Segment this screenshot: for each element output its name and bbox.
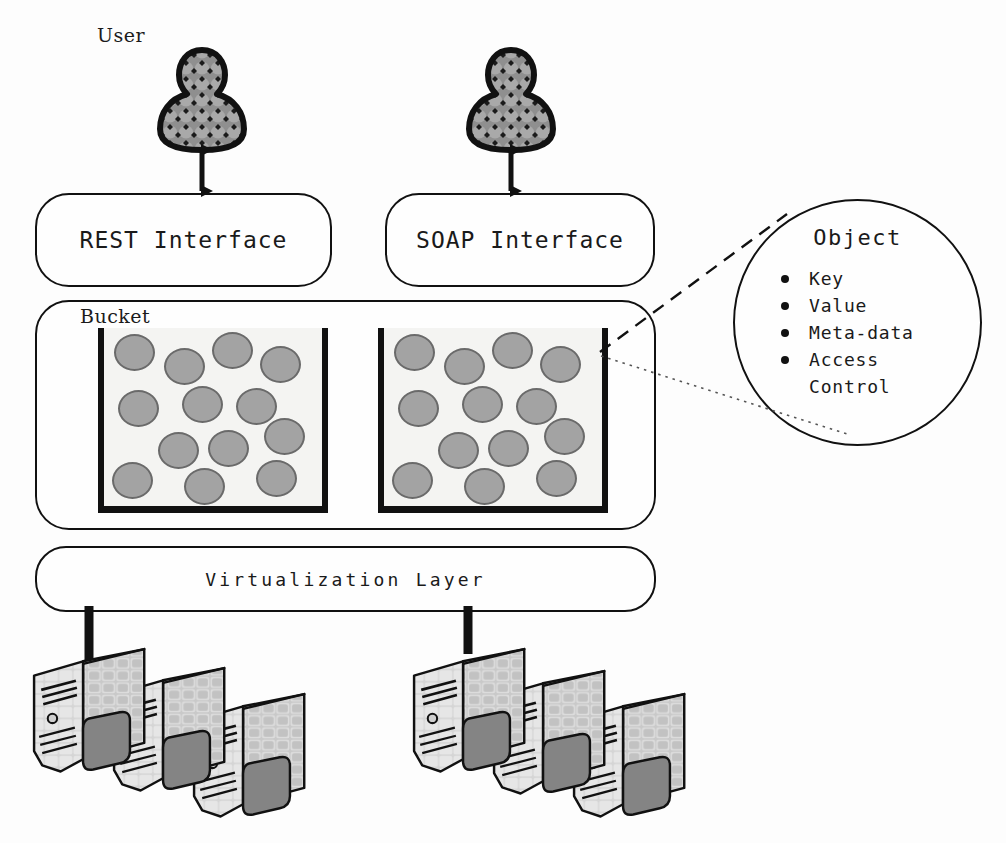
server-tower[interactable] <box>194 694 304 816</box>
storage-object-circle[interactable] <box>182 386 223 423</box>
user-label: User <box>97 24 145 46</box>
storage-object-circle[interactable] <box>392 462 433 499</box>
object-attribute-label: Value <box>809 292 867 319</box>
server-tower[interactable] <box>574 694 684 816</box>
storage-object-circle[interactable] <box>438 432 479 469</box>
bullet-icon <box>781 329 789 337</box>
virtualization-layer-box[interactable]: Virtualization Layer <box>35 546 656 612</box>
storage-object-circle[interactable] <box>260 346 301 383</box>
bullet-icon <box>781 356 789 364</box>
storage-object-circle[interactable] <box>516 388 557 425</box>
bucket-label: Bucket <box>80 305 150 327</box>
object-detail-circle[interactable]: Object Key Value Meta-data Access Contro… <box>733 199 982 446</box>
soap-interface-box[interactable]: SOAP Interface <box>385 193 655 287</box>
storage-object-circle[interactable] <box>114 334 155 371</box>
virtualization-layer-label: Virtualization Layer <box>205 569 486 590</box>
soap-interface-label: SOAP Interface <box>416 227 624 253</box>
storage-object-circle[interactable] <box>492 332 533 369</box>
bullet-icon <box>781 302 789 310</box>
user-icon <box>455 44 567 156</box>
storage-object-circle[interactable] <box>256 460 297 497</box>
rest-interface-box[interactable]: REST Interface <box>35 193 332 287</box>
storage-object-circle[interactable] <box>164 348 205 385</box>
storage-object-circle[interactable] <box>212 332 253 369</box>
object-detail-title: Object <box>735 225 980 250</box>
list-item: Access Control <box>781 346 914 400</box>
storage-object-circle[interactable] <box>208 430 249 467</box>
bullet-icon <box>781 275 789 283</box>
storage-object-circle[interactable] <box>158 432 199 469</box>
object-attribute-label: Meta-data <box>809 319 914 346</box>
storage-object-circle[interactable] <box>462 386 503 423</box>
bucket-left[interactable] <box>98 328 328 513</box>
diagram-canvas: User REST Interface SOAP Interface <box>0 0 1006 843</box>
storage-object-circle[interactable] <box>444 348 485 385</box>
server-tower[interactable] <box>34 649 144 771</box>
storage-object-circle[interactable] <box>112 462 153 499</box>
storage-object-circle[interactable] <box>118 390 159 427</box>
storage-object-circle[interactable] <box>544 418 585 455</box>
bucket-right[interactable] <box>378 328 608 513</box>
storage-object-circle[interactable] <box>398 390 439 427</box>
storage-object-circle[interactable] <box>264 418 305 455</box>
server-cluster-right[interactable] <box>414 649 684 816</box>
storage-object-circle[interactable] <box>236 388 277 425</box>
list-item: Value <box>781 292 914 319</box>
storage-object-circle[interactable] <box>488 430 529 467</box>
storage-object-circle[interactable] <box>184 468 225 505</box>
user-icon <box>146 44 258 156</box>
server-tower[interactable] <box>414 649 524 771</box>
object-attribute-list: Key Value Meta-data Access Control <box>781 265 914 400</box>
storage-object-circle[interactable] <box>394 334 435 371</box>
server-tower[interactable] <box>114 668 224 790</box>
rest-interface-label: REST Interface <box>80 227 288 253</box>
server-tower[interactable] <box>494 671 604 793</box>
storage-object-circle[interactable] <box>540 346 581 383</box>
list-item: Key <box>781 265 914 292</box>
server-cluster-left[interactable] <box>34 649 304 816</box>
object-attribute-label: Key <box>809 265 844 292</box>
list-item: Meta-data <box>781 319 914 346</box>
object-attribute-label: Access Control <box>809 346 890 400</box>
storage-object-circle[interactable] <box>536 460 577 497</box>
storage-object-circle[interactable] <box>464 468 505 505</box>
